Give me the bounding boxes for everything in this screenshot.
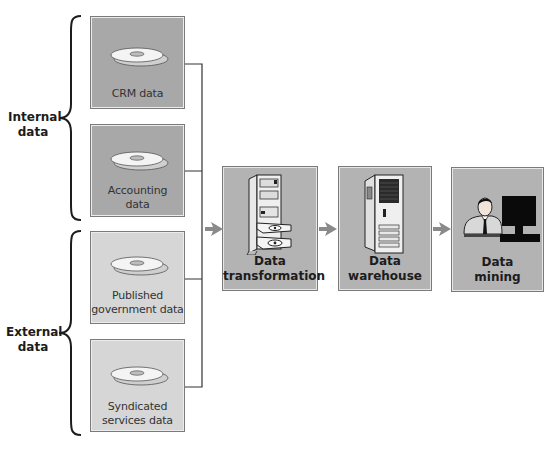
arrow-right-icon bbox=[433, 222, 451, 236]
source-label: Accounting bbox=[91, 184, 184, 198]
stage-label: Data bbox=[339, 254, 431, 269]
source-box-crm: CRM data bbox=[90, 16, 185, 109]
stage-label: Data bbox=[223, 254, 317, 269]
stage-box-data-transformation: Data transformation bbox=[222, 166, 318, 291]
disc-stack-icon bbox=[109, 45, 169, 69]
source-label: CRM data bbox=[91, 87, 184, 101]
arrow-right-icon bbox=[319, 222, 337, 236]
stage-box-data-mining: Data mining bbox=[451, 167, 544, 292]
source-box-published-government: Published government data bbox=[90, 231, 185, 324]
server-with-disc-drives-icon bbox=[243, 173, 303, 255]
source-label: data bbox=[91, 198, 184, 212]
source-box-syndicated-services: Syndicated services data bbox=[90, 339, 185, 432]
stage-label: mining bbox=[452, 270, 543, 285]
source-label: Published bbox=[91, 289, 184, 303]
stage-label: transformation bbox=[223, 269, 317, 284]
stage-box-data-warehouse: Data warehouse bbox=[338, 166, 432, 291]
source-label: services data bbox=[91, 414, 184, 428]
stage-label: warehouse bbox=[339, 269, 431, 284]
arrow-right-icon bbox=[205, 222, 223, 236]
external-data-label: External data bbox=[6, 325, 60, 355]
disc-stack-icon bbox=[109, 254, 169, 278]
internal-data-label: Internal data bbox=[8, 110, 58, 140]
source-label: government data bbox=[91, 303, 184, 317]
disc-stack-icon bbox=[109, 364, 169, 388]
server-tower-icon bbox=[361, 173, 411, 255]
source-box-accounting: Accounting data bbox=[90, 124, 185, 217]
source-label: Syndicated bbox=[91, 400, 184, 414]
disc-stack-icon bbox=[109, 149, 169, 173]
person-at-computer-icon bbox=[458, 194, 540, 246]
stage-label: Data bbox=[452, 255, 543, 270]
